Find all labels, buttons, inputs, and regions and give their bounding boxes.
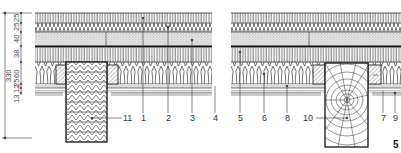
label-4: 4 — [213, 113, 218, 123]
label-9: 9 — [393, 113, 398, 123]
label-10: 10 — [303, 113, 313, 123]
dimension-38: 38 — [12, 50, 21, 58]
dimension-13: 13 — [12, 95, 21, 103]
figure-number: 5 — [393, 139, 399, 150]
label-1: 1 — [141, 113, 146, 123]
counter-batten-layer — [35, 13, 212, 23]
dimension-40: 40 — [12, 35, 21, 43]
vapour-barrier-layer — [35, 84, 212, 88]
label-11: 11 — [123, 113, 132, 123]
dimension-25b: 25 — [12, 23, 21, 31]
rafter-layer — [35, 48, 212, 62]
dimension-60: 60 — [12, 70, 21, 78]
label-7: 7 — [381, 113, 386, 123]
label-8: 8 — [285, 113, 290, 123]
label-6: 6 — [262, 113, 267, 123]
roof-section-drawing: 330 13 12 25 60 38 40 25 25 11 1 2 3 4 5… — [0, 0, 401, 153]
dimension-25a: 25 — [12, 79, 21, 87]
board-layer — [35, 32, 212, 46]
right-panel — [231, 13, 401, 147]
label-5: 5 — [238, 113, 243, 123]
dimension-25c: 25 — [12, 14, 21, 22]
label-2: 2 — [166, 113, 171, 123]
label-3: 3 — [190, 113, 195, 123]
top-insulation-layer — [35, 23, 212, 32]
